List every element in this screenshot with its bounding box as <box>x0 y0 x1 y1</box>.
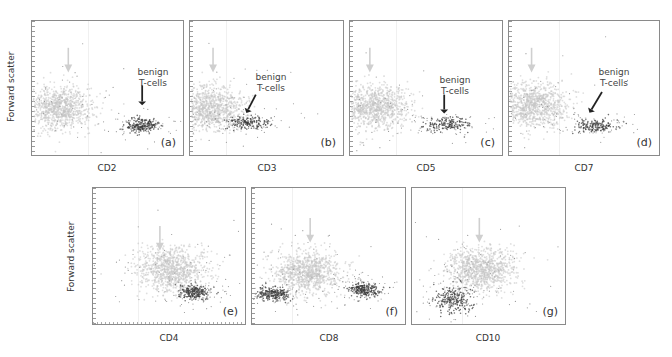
benign-tcells-annotation: benign T-cells <box>128 67 178 89</box>
panel-e-cd4: (e) <box>92 187 246 325</box>
annotation-line-1: benign <box>430 75 480 86</box>
benign-tcells-annotation: benign T-cells <box>430 75 480 97</box>
x-axis-label-cd10: CD10 <box>448 333 528 343</box>
benign-tcells-arrow-icon <box>588 92 602 113</box>
annotation-line-1: benign <box>246 72 296 83</box>
panel-g-cd10: (g) <box>411 187 566 325</box>
annotation-line-2: T-cells <box>128 78 178 89</box>
x-axis-label-cd8: CD8 <box>289 333 369 343</box>
y-axis-label-top-row: Forward scatter <box>6 51 16 122</box>
benign-tcells-arrow-icon <box>245 95 256 113</box>
tumor-population-arrow-icon <box>209 48 217 73</box>
panel-letter: (c) <box>480 136 495 149</box>
annotation-line-1: benign <box>589 67 639 78</box>
tumor-population-arrow-icon <box>528 48 536 73</box>
panel-f-cd8: (f) <box>251 187 406 325</box>
annotation-line-1: benign <box>128 67 178 78</box>
x-axis-label-cd4: CD4 <box>129 333 209 343</box>
benign-tcells-annotation: benign T-cells <box>589 67 639 89</box>
panel-letter: (g) <box>542 305 558 318</box>
panel-letter: (f) <box>386 305 398 318</box>
panel-a-cd2: benign T-cells (a) <box>31 20 184 156</box>
x-axis-label-cd5: CD5 <box>386 163 466 173</box>
annotation-line-2: T-cells <box>589 78 639 89</box>
tumor-population-arrow-icon <box>156 226 164 251</box>
benign-tcells-annotation: benign T-cells <box>246 72 296 94</box>
panel-letter: (b) <box>320 136 336 149</box>
panel-letter: (d) <box>636 136 652 149</box>
scatter-plot-g <box>412 188 565 324</box>
panel-b-cd3: benign T-cells (b) <box>189 20 344 156</box>
y-axis-label-bottom-row: Forward scatter <box>66 221 76 292</box>
scatter-plot-e <box>93 188 245 324</box>
panel-c-cd5: benign T-cells (c) <box>349 20 503 156</box>
tumor-population-arrow-icon <box>306 218 314 243</box>
panel-letter: (a) <box>161 136 176 149</box>
annotation-line-2: T-cells <box>246 83 296 94</box>
panel-d-cd7: benign T-cells (d) <box>508 20 660 156</box>
annotation-line-2: T-cells <box>430 86 480 97</box>
x-axis-label-cd3: CD3 <box>227 163 307 173</box>
benign-tcells-arrow-icon <box>440 95 448 114</box>
tumor-population-arrow-icon <box>64 48 72 73</box>
scatter-plot-f <box>252 188 405 324</box>
x-axis-label-cd7: CD7 <box>544 163 624 173</box>
tumor-population-arrow-icon <box>475 218 483 243</box>
tumor-population-arrow-icon <box>366 48 374 73</box>
x-axis-label-cd2: CD2 <box>67 163 147 173</box>
panel-letter: (e) <box>223 305 238 318</box>
